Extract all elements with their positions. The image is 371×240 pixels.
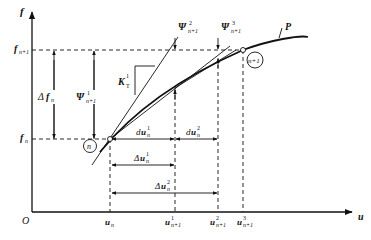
svg-text:Ψ: Ψ: [76, 91, 85, 102]
point-n: [108, 137, 113, 142]
psi3-label: Ψ 3 n+1: [221, 20, 241, 34]
svg-text:2: 2: [197, 125, 200, 131]
curve-p: [100, 37, 308, 152]
svg-text:n: n: [25, 138, 28, 144]
svg-text:Ψ: Ψ: [221, 21, 230, 32]
svg-text:K: K: [117, 76, 126, 87]
curve-p-leader: [279, 28, 282, 38]
svg-text:u: u: [191, 127, 196, 137]
du2-label: d u 2 n: [186, 125, 200, 138]
kt-label: K 1 T: [117, 73, 130, 89]
svg-text:2: 2: [216, 215, 219, 221]
point-n1-label: n+1: [248, 57, 260, 65]
svg-text:n: n: [147, 132, 150, 138]
delta-f-label: Δ f n: [36, 90, 66, 104]
svg-text:u: u: [210, 217, 215, 227]
svg-text:1: 1: [87, 90, 90, 96]
svg-text:1: 1: [171, 215, 174, 221]
svg-text:3: 3: [243, 215, 246, 221]
svg-text:n: n: [111, 222, 114, 228]
tangent-3: [175, 50, 236, 88]
Du1-label: Δ u 1 n: [133, 151, 149, 164]
svg-text:u: u: [237, 217, 242, 227]
f-n1-label: f n+1: [14, 43, 29, 55]
svg-text:n: n: [51, 97, 54, 103]
du1-label: d u 1 n: [136, 125, 150, 138]
svg-text:u: u: [141, 127, 146, 137]
svg-text:1: 1: [146, 151, 149, 157]
psi1-label: Ψ 1 n+1: [75, 90, 105, 104]
svg-text:u: u: [165, 217, 170, 227]
svg-text:u: u: [161, 181, 166, 191]
point-n-label: n: [87, 142, 91, 151]
psi2-label: Ψ 2 n+1: [178, 20, 198, 34]
tick-u1: u 1 n+1: [165, 215, 181, 228]
svg-text:Δ: Δ: [133, 153, 139, 163]
svg-text:n+1: n+1: [216, 222, 226, 228]
tick-u-n: u n: [105, 217, 114, 228]
svg-text:u: u: [105, 217, 110, 227]
tangent-2: [110, 46, 230, 139]
svg-text:2: 2: [189, 20, 192, 26]
x-axis-label: u: [358, 211, 364, 222]
svg-text:u: u: [140, 153, 145, 163]
svg-text:Δ: Δ: [154, 181, 160, 191]
svg-text:n+1: n+1: [171, 222, 181, 228]
point-n1: [241, 48, 246, 53]
svg-text:1: 1: [126, 73, 129, 79]
kt-slope-triangle: [135, 66, 155, 95]
svg-text:n+1: n+1: [19, 49, 29, 55]
svg-text:3: 3: [232, 20, 235, 26]
origin-label: O: [22, 215, 29, 226]
svg-text:n: n: [146, 158, 149, 164]
svg-text:n+1: n+1: [188, 28, 198, 34]
svg-text:n+1: n+1: [231, 28, 241, 34]
svg-text:T: T: [126, 83, 130, 89]
svg-text:n: n: [197, 132, 200, 138]
svg-text:n+1: n+1: [86, 98, 96, 104]
y-axis-label: f: [20, 5, 25, 17]
tick-u2: u 2 n+1: [210, 215, 226, 228]
svg-text:1: 1: [147, 125, 150, 131]
f-n-label: f n: [20, 132, 28, 144]
svg-text:Δ: Δ: [37, 91, 44, 102]
svg-text:2: 2: [167, 179, 170, 185]
svg-text:Ψ: Ψ: [178, 21, 187, 32]
svg-text:n+1: n+1: [243, 222, 253, 228]
curve-p-label: P: [285, 21, 292, 32]
Du2-label: Δ u 2 n: [154, 179, 170, 192]
svg-text:n: n: [167, 186, 170, 192]
newton-raphson-diagram: f u O f n+1 f n P K 1 T n n+1 Δ f n: [0, 0, 371, 240]
tick-u3: u 3 n+1: [237, 215, 253, 228]
